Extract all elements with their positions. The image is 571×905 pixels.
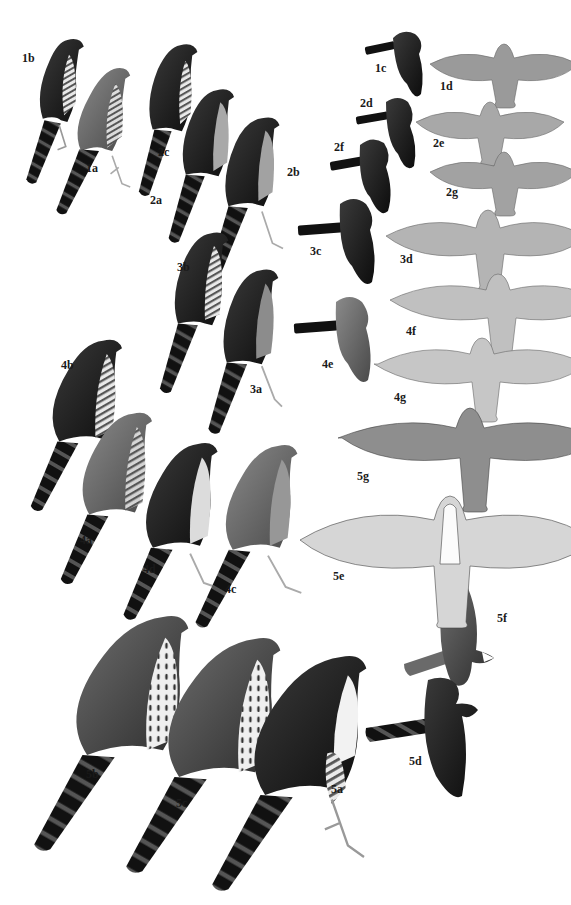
bird-5g xyxy=(338,408,571,512)
label-4c: 4c xyxy=(225,583,236,595)
label-4f: 4f xyxy=(406,325,416,337)
bird-3c xyxy=(298,199,375,284)
label-1b: 1b xyxy=(22,52,35,64)
label-5f: 5f xyxy=(497,612,507,624)
bird-3d xyxy=(386,210,571,292)
label-2b: 2b xyxy=(287,166,300,178)
label-2d: 2d xyxy=(360,97,373,109)
label-1c: 1c xyxy=(375,62,386,74)
bird-4a xyxy=(61,413,152,584)
label-2e: 2e xyxy=(433,137,444,149)
label-3b: 3b xyxy=(177,261,190,273)
bird-plate: 1a 1b 1c 1d 2a 2b 2c 2d 2e 2f 2g 3a 3b 3… xyxy=(0,0,571,905)
bird-2g xyxy=(430,152,571,216)
label-4d: 4d xyxy=(143,563,156,575)
bird-4c xyxy=(195,445,301,628)
label-2a: 2a xyxy=(150,194,162,206)
label-2f: 2f xyxy=(334,141,344,153)
label-5b: 5b xyxy=(86,768,99,780)
label-2c: 2c xyxy=(158,146,169,158)
bird-2e xyxy=(416,102,564,166)
bird-5d xyxy=(366,678,479,797)
label-1a: 1a xyxy=(86,162,98,174)
bird-5e xyxy=(300,496,571,628)
label-4b: 4b xyxy=(61,359,74,371)
label-5d: 5d xyxy=(409,755,422,767)
label-3a: 3a xyxy=(250,383,262,395)
label-1d: 1d xyxy=(440,80,453,92)
bird-1d xyxy=(430,44,571,108)
label-5a: 5a xyxy=(331,783,343,795)
bird-1c xyxy=(364,32,422,97)
label-4a: 4a xyxy=(80,534,92,546)
label-4g: 4g xyxy=(394,391,406,403)
label-4e: 4e xyxy=(322,358,333,370)
bird-3b xyxy=(160,233,228,394)
label-3c: 3c xyxy=(310,245,321,257)
label-5e: 5e xyxy=(333,570,344,582)
label-5g: 5g xyxy=(357,470,369,482)
label-5c: 5c xyxy=(176,797,187,809)
label-2g: 2g xyxy=(446,186,458,198)
label-3d: 3d xyxy=(400,253,413,265)
